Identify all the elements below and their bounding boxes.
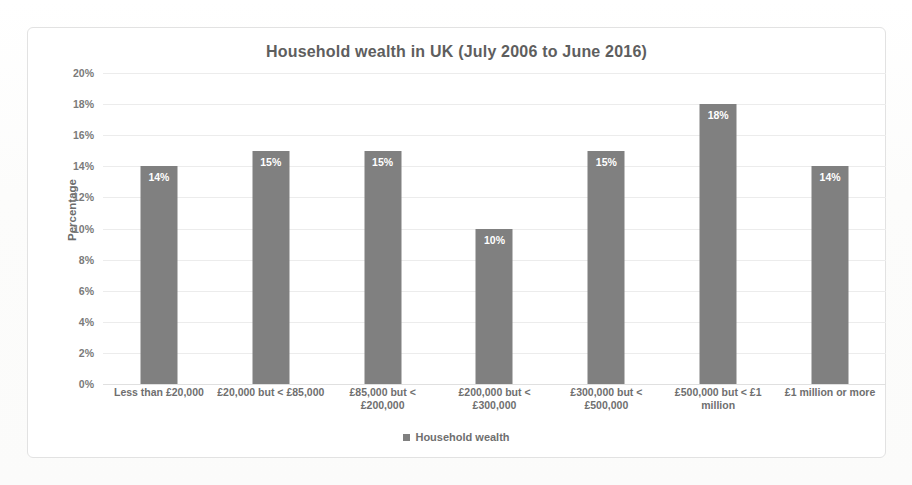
y-axis-tick-label: 14% — [73, 160, 94, 172]
y-axis-tick-label: 4% — [79, 316, 94, 328]
bar-series: 14%15%15%10%15%18%14% — [103, 73, 886, 384]
chart-legend: Household wealth — [28, 431, 885, 443]
bar-value-label: 14% — [812, 171, 849, 183]
x-axis-category-label: Less than £20,000 — [103, 386, 215, 399]
x-axis-category-label: £500,000 but < £1 million — [662, 386, 774, 412]
y-axis-tick-label: 8% — [79, 254, 94, 266]
bar-value-label: 15% — [364, 156, 401, 168]
x-axis-category-label: £85,000 but < £200,000 — [327, 386, 439, 412]
gridline — [103, 384, 886, 385]
legend-item-label: Household wealth — [415, 431, 509, 443]
x-axis-category-label: £200,000 but < £300,000 — [439, 386, 551, 412]
y-axis-tick-label: 6% — [79, 285, 94, 297]
bar-slot: 14% — [103, 73, 215, 384]
bar[interactable]: 15% — [588, 151, 625, 384]
bar-slot: 15% — [215, 73, 327, 384]
bar-value-label: 15% — [252, 156, 289, 168]
chart-title: Household wealth in UK (July 2006 to Jun… — [28, 43, 885, 61]
chart-container: Household wealth in UK (July 2006 to Jun… — [27, 27, 886, 458]
bar-value-label: 10% — [476, 234, 513, 246]
bar-slot: 15% — [327, 73, 439, 384]
y-axis-tick-label: 16% — [73, 129, 94, 141]
bar-value-label: 15% — [588, 156, 625, 168]
bar[interactable]: 10% — [476, 229, 513, 385]
bar-slot: 14% — [774, 73, 886, 384]
x-axis-category-label: £300,000 but < £500,000 — [550, 386, 662, 412]
bar-value-label: 18% — [700, 109, 737, 121]
x-axis-category-label: £1 million or more — [774, 386, 886, 399]
bar-slot: 18% — [662, 73, 774, 384]
bar-slot: 10% — [439, 73, 551, 384]
x-axis-category-label: £20,000 but < £85,000 — [215, 386, 327, 399]
bar[interactable]: 14% — [812, 166, 849, 384]
y-axis-tick-label: 12% — [73, 191, 94, 203]
bar-slot: 15% — [550, 73, 662, 384]
y-axis-tick-label: 18% — [73, 98, 94, 110]
y-axis-tick-label: 0% — [79, 378, 94, 390]
square-marker-icon — [403, 434, 410, 441]
y-axis-tick-label: 20% — [73, 67, 94, 79]
y-axis-tick-label: 10% — [73, 223, 94, 235]
bar-value-label: 14% — [140, 171, 177, 183]
bar[interactable]: 15% — [252, 151, 289, 384]
y-axis-tick-label: 2% — [79, 347, 94, 359]
plot-area: 20%18%16%14%12%10%8%6%4%2%0% 14%15%15%10… — [103, 73, 886, 384]
bar[interactable]: 18% — [700, 104, 737, 384]
bar[interactable]: 15% — [364, 151, 401, 384]
bar[interactable]: 14% — [140, 166, 177, 384]
